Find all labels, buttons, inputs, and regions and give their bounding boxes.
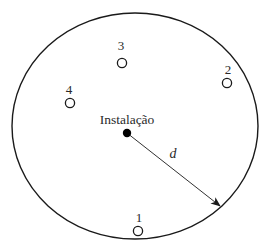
demand-point-1: 1 bbox=[133, 210, 142, 236]
demand-point-label: 2 bbox=[225, 62, 232, 77]
demand-point-4: 4 bbox=[65, 82, 74, 108]
radius-arrow bbox=[127, 133, 220, 206]
facility-location-diagram: d Instalação 1234 bbox=[0, 0, 265, 248]
demand-point-label: 1 bbox=[136, 210, 143, 225]
demand-point-marker bbox=[65, 98, 74, 107]
diagram-svg: d Instalação 1234 bbox=[0, 0, 265, 248]
radius-label: d bbox=[170, 146, 178, 161]
demand-point-label: 4 bbox=[66, 82, 73, 97]
demand-point-marker bbox=[133, 226, 142, 235]
demand-point-marker bbox=[222, 78, 231, 87]
facility-point bbox=[123, 129, 131, 137]
demand-point-3: 3 bbox=[117, 38, 126, 68]
facility-label: Instalação bbox=[100, 112, 155, 127]
demand-points: 1234 bbox=[65, 38, 231, 236]
demand-point-marker bbox=[117, 58, 126, 67]
demand-point-2: 2 bbox=[222, 62, 231, 88]
demand-point-label: 3 bbox=[118, 38, 125, 53]
